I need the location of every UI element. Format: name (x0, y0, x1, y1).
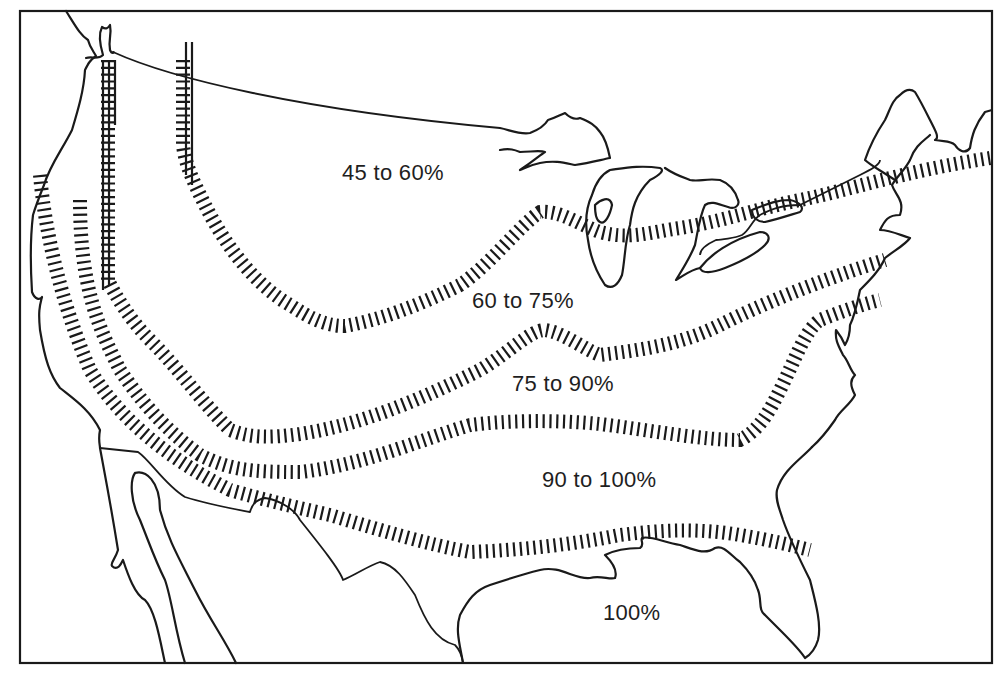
isoline-75-90 (80, 200, 880, 472)
zone-label-90-100: 90 to 100% (542, 467, 656, 493)
green-bay (595, 199, 612, 222)
puget-sound (86, 25, 114, 58)
northern-border-line (113, 52, 500, 128)
isoline-60-75 (108, 60, 885, 437)
isoline-45-60 (183, 60, 990, 326)
zone-label-100: 100% (603, 600, 660, 626)
map-frame (20, 11, 992, 663)
zone-label-45-60: 45 to 60% (342, 160, 444, 186)
isoline-90-100 (40, 175, 810, 552)
zone-label-60-75: 60 to 75% (472, 288, 574, 314)
gulf-of-california (132, 472, 236, 663)
us-isoline-map (0, 0, 1003, 688)
zone-label-75-90: 75 to 90% (512, 371, 614, 397)
atlantic-coastline (812, 135, 930, 447)
lake-superior (500, 113, 610, 170)
